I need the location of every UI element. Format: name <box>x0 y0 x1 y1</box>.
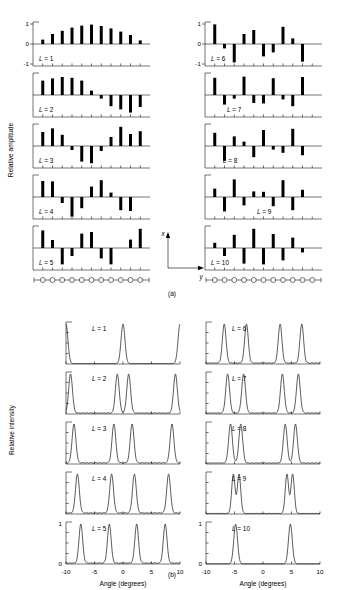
y-tick-label: 0 <box>199 560 203 567</box>
panel-a-ylabel: Relative amplitude <box>7 123 15 178</box>
svg-text:L = 7: L = 7 <box>232 375 247 382</box>
amplitude-bar <box>272 44 275 52</box>
amplitude-bar <box>90 91 93 95</box>
amplitude-bar <box>213 189 216 197</box>
amplitude-bar <box>61 135 64 146</box>
amplitude-bar <box>291 238 294 248</box>
amplitude-bar <box>223 95 226 105</box>
amplitude-bar <box>282 248 285 260</box>
amplitude-bar <box>272 146 275 150</box>
amplitude-bar <box>139 40 142 44</box>
x-axis-title: Angle (degrees) <box>100 580 147 588</box>
svg-text:L = 2: L = 2 <box>39 106 54 113</box>
amplitude-bar <box>100 248 103 258</box>
amplitude-series-label-5: L = 5 <box>39 259 54 266</box>
svg-text:L = 9: L = 9 <box>257 208 272 215</box>
figure-root: L = 1L = 2L = 3L = 4L = 5L = 6L = 7L = 8… <box>0 0 344 590</box>
amplitude-bar <box>119 95 122 109</box>
amplitude-series-label-10: L = 10 <box>211 259 229 266</box>
amplitude-bar <box>291 129 294 146</box>
amplitude-series-label-7: L = 7 <box>227 106 242 113</box>
intensity-series-label-9: L = 9 <box>232 475 247 482</box>
amplitude-bar <box>243 77 246 95</box>
intensity-series-label-6: L = 6 <box>232 325 247 332</box>
amplitude-bar <box>71 248 74 256</box>
antenna-element <box>128 278 133 283</box>
amplitude-bar <box>252 30 255 44</box>
intensity-series-label-1: L = 1 <box>92 325 107 332</box>
amplitude-bar <box>90 232 93 248</box>
amplitude-bar <box>119 127 122 146</box>
x-tick-label: 10 <box>317 568 324 575</box>
amplitude-bar <box>243 142 246 146</box>
antenna-element <box>281 278 286 283</box>
amplitude-bar <box>100 26 103 44</box>
y-tick-label: 0 <box>198 40 202 47</box>
amplitude-bar <box>233 136 236 146</box>
amplitude-bar <box>41 181 44 197</box>
antenna-element <box>300 278 305 283</box>
amplitude-bar <box>129 240 132 248</box>
antenna-element <box>89 278 94 283</box>
svg-text:L = 8: L = 8 <box>232 425 247 432</box>
antenna-element <box>290 278 295 283</box>
svg-text:L = 10: L = 10 <box>211 259 229 266</box>
antenna-element <box>212 278 217 283</box>
antenna-element <box>310 278 315 283</box>
amplitude-bar <box>100 180 103 197</box>
amplitude-bar <box>262 95 265 103</box>
subfigure-a-label: (a) <box>168 290 176 298</box>
amplitude-bar <box>301 248 304 252</box>
amplitude-bar <box>129 197 132 211</box>
amplitude-bar <box>41 230 44 248</box>
amplitude-bar <box>41 81 44 95</box>
amplitude-bar <box>301 190 304 197</box>
antenna-element <box>70 278 75 283</box>
amplitude-bar <box>301 146 304 155</box>
antenna-array-left <box>34 278 149 283</box>
y-tick-label: 1 <box>59 520 63 527</box>
y-tick-label: 1 <box>26 20 30 27</box>
intensity-series-label-7: L = 7 <box>232 375 247 382</box>
x-tick-label: 5 <box>290 568 294 575</box>
svg-text:L = 6: L = 6 <box>211 55 226 62</box>
amplitude-bar <box>51 78 54 95</box>
amplitude-bar <box>110 248 113 264</box>
amplitude-bar <box>262 130 265 146</box>
antenna-element <box>261 278 266 283</box>
amplitude-bar <box>80 234 83 248</box>
svg-text:L = 8: L = 8 <box>223 157 238 164</box>
svg-text:L = 1: L = 1 <box>39 55 54 62</box>
amplitude-bar <box>223 44 226 48</box>
amplitude-bar <box>243 34 246 44</box>
amplitude-bar <box>301 77 304 95</box>
amplitude-bar <box>291 95 294 106</box>
amplitude-bar <box>80 81 83 95</box>
intensity-series-label-3: L = 3 <box>92 425 107 432</box>
amplitude-bar <box>252 146 255 157</box>
amplitude-bar <box>110 193 113 197</box>
amplitude-bar <box>41 132 44 146</box>
amplitude-bar <box>233 179 236 197</box>
amplitude-bar <box>262 248 265 264</box>
amplitude-bar <box>291 38 294 44</box>
amplitude-series-label-4: L = 4 <box>39 208 54 215</box>
svg-text:L = 7: L = 7 <box>227 106 242 113</box>
amplitude-bar <box>282 27 285 44</box>
amplitude-bar <box>243 197 246 205</box>
amplitude-bar <box>80 26 83 44</box>
amplitude-bar <box>100 95 103 99</box>
amplitude-series-label-8: L = 8 <box>223 157 238 164</box>
amplitude-bar <box>90 146 93 163</box>
x-tick-label: -10 <box>62 568 72 575</box>
amplitude-bar <box>213 133 216 146</box>
amplitude-bar <box>213 243 216 248</box>
x-tick-label: 10 <box>177 568 184 575</box>
amplitude-bar <box>51 181 54 197</box>
intensity-series-label-5: L = 5 <box>92 525 107 532</box>
antenna-element <box>79 278 84 283</box>
svg-text:L = 10: L = 10 <box>232 525 250 532</box>
svg-text:L = 4: L = 4 <box>39 208 54 215</box>
x-tick-label: -10 <box>202 568 212 575</box>
amplitude-bar <box>213 78 216 95</box>
